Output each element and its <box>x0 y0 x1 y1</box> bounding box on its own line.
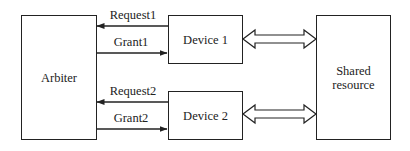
device1-block: Device 1 <box>168 15 243 64</box>
request2-label: Request2 <box>110 84 157 99</box>
bus-arrow-device1-icon <box>243 30 316 48</box>
shared-label-line2: resource <box>332 78 374 92</box>
arbiter-label: Arbiter <box>41 71 77 85</box>
shared-resource-block: Shared resource <box>316 15 391 140</box>
request1-label: Request1 <box>110 8 157 23</box>
diagram-canvas: Arbiter Device 1 Device 2 Shared resourc… <box>0 0 410 151</box>
device2-block: Device 2 <box>168 91 243 140</box>
shared-label-line1: Shared <box>336 64 371 78</box>
bus-arrow-device2-icon <box>243 105 316 123</box>
grant2-label: Grant2 <box>114 111 149 126</box>
device1-label: Device 1 <box>183 33 228 47</box>
grant1-label: Grant1 <box>114 35 149 50</box>
device2-label: Device 2 <box>183 109 228 123</box>
arbiter-block: Arbiter <box>21 15 97 140</box>
